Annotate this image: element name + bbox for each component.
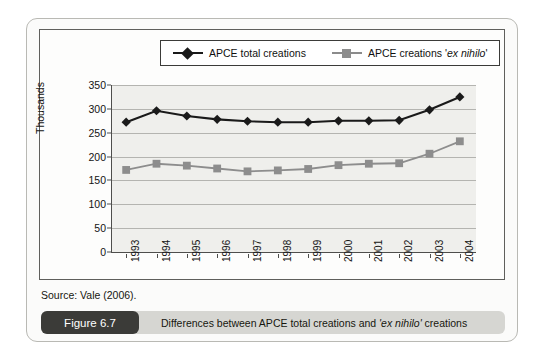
x-axis-tick-mark: [157, 254, 158, 258]
y-axis-tick-label: 50: [72, 222, 106, 234]
x-axis-tick-mark: [278, 254, 279, 258]
legend-label-ex-nihilo-em: ex nihilo: [447, 47, 486, 59]
data-point-marker: [395, 116, 404, 125]
data-point-marker: [122, 118, 131, 127]
x-axis-tick-mark: [369, 254, 370, 258]
x-axis-tick-labels: 1993199419951996199719981999200020012002…: [111, 254, 475, 294]
x-axis-tick-label: 1997: [252, 240, 263, 262]
diamond-marker-icon: [173, 47, 203, 59]
data-point-marker: [334, 116, 343, 125]
data-point-marker: [244, 167, 252, 175]
y-axis-tick-label: 100: [72, 198, 106, 210]
data-point-marker: [182, 111, 191, 120]
x-axis-tick-mark: [339, 254, 340, 258]
x-axis-tick-label: 1994: [161, 240, 172, 262]
square-marker-icon: [332, 47, 362, 59]
figure-number-badge: Figure 6.7: [41, 311, 139, 334]
x-axis-tick-label: 2000: [343, 240, 354, 262]
x-axis-tick-mark: [399, 254, 400, 258]
data-point-marker: [213, 115, 222, 124]
legend-item-ex-nihilo: APCE creations 'ex nihilo': [332, 47, 488, 59]
data-point-marker: [122, 166, 130, 174]
x-axis-tick-mark: [217, 254, 218, 258]
x-axis-tick-mark: [187, 254, 188, 258]
x-axis-tick-label: 1999: [312, 240, 323, 262]
y-axis-tick-label: 150: [72, 174, 106, 186]
figure-caption-bar: Figure 6.7 Differences between APCE tota…: [41, 311, 505, 334]
legend-label-ex-nihilo-pre: APCE creations ': [368, 47, 447, 59]
x-axis-tick-label: 2002: [403, 240, 414, 262]
caption-text-em: 'ex nihilo': [379, 317, 422, 329]
x-axis-tick-label: 2003: [434, 240, 445, 262]
data-point-marker: [153, 160, 161, 168]
y-axis-tick-label: 250: [72, 127, 106, 139]
caption-text-pre: Differences between APCE total creations…: [161, 317, 379, 329]
y-axis-tick-label: 0: [72, 246, 106, 258]
data-point-marker: [183, 162, 191, 170]
data-point-marker: [365, 160, 373, 168]
x-axis-tick-mark: [460, 254, 461, 258]
x-axis-tick-mark: [126, 254, 127, 258]
x-axis-tick-mark: [248, 254, 249, 258]
source-note: Source: Vale (2006).: [41, 289, 137, 301]
x-axis-tick-mark: [308, 254, 309, 258]
y-axis-tick-label: 300: [72, 103, 106, 115]
legend-label-total-creations: APCE total creations: [209, 47, 306, 59]
data-point-marker: [425, 105, 434, 114]
data-point-marker: [335, 161, 343, 169]
data-point-marker: [304, 118, 313, 127]
y-axis-tick-label: 200: [72, 151, 106, 163]
x-axis-tick-label: 1996: [221, 240, 232, 262]
y-axis-tick-label: 350: [72, 79, 106, 91]
y-axis-tick-labels: 050100150200250300350: [70, 85, 106, 252]
data-point-marker: [243, 117, 252, 126]
data-point-marker: [304, 165, 312, 173]
x-axis-tick-label: 1993: [130, 240, 141, 262]
data-point-marker: [152, 106, 161, 115]
series-line: [126, 97, 460, 122]
chart-frame: APCE total creations APCE creations 'ex …: [39, 29, 505, 280]
data-point-marker: [213, 165, 221, 173]
legend-item-total-creations: APCE total creations: [173, 47, 306, 59]
data-point-marker: [274, 167, 282, 175]
data-point-marker: [273, 118, 282, 127]
x-axis-tick-label: 2004: [464, 240, 475, 262]
data-point-marker: [455, 92, 464, 101]
series-line: [126, 141, 460, 171]
data-point-marker: [426, 150, 434, 158]
x-axis-tick-label: 2001: [373, 240, 384, 262]
data-point-marker: [456, 137, 464, 145]
data-point-marker: [364, 116, 373, 125]
figure-caption-text: Differences between APCE total creations…: [161, 317, 467, 329]
x-axis-tick-label: 1998: [282, 240, 293, 262]
legend-label-ex-nihilo-post: ': [485, 47, 487, 59]
legend-label-ex-nihilo: APCE creations 'ex nihilo': [368, 47, 488, 59]
y-axis-title: Thousands: [34, 82, 46, 134]
chart-legend: APCE total creations APCE creations 'ex …: [160, 40, 500, 66]
data-point-marker: [395, 159, 403, 167]
data-series-layer: [111, 85, 475, 252]
caption-text-post: creations: [422, 317, 468, 329]
x-axis-tick-mark: [430, 254, 431, 258]
x-axis-tick-label: 1995: [191, 240, 202, 262]
figure-card: APCE total creations APCE creations 'ex …: [26, 18, 518, 342]
